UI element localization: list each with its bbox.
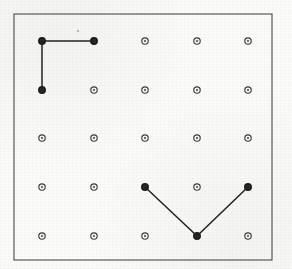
peg-c4-r3[interactable] xyxy=(194,135,200,141)
peg-center-dot-icon xyxy=(93,235,95,237)
peg-c2-r4[interactable] xyxy=(91,184,97,190)
peg-center-dot-icon xyxy=(196,186,198,188)
peg-c1-r5[interactable] xyxy=(39,233,45,239)
peg-c4-r1[interactable] xyxy=(194,38,200,44)
peg-center-dot-icon xyxy=(196,137,198,139)
peg-center-dot-icon xyxy=(93,137,95,139)
peg-center-dot-icon xyxy=(144,235,146,237)
peg-grid-layer xyxy=(39,38,251,239)
peg-center-dot-icon xyxy=(144,137,146,139)
peg-c4-r2[interactable] xyxy=(194,87,200,93)
peg-c3-r2[interactable] xyxy=(142,87,148,93)
peg-c1-r3[interactable] xyxy=(39,135,45,141)
peg-c3-r5[interactable] xyxy=(142,233,148,239)
peg-c5-r3[interactable] xyxy=(245,135,251,141)
peg-c5-r2[interactable] xyxy=(245,87,251,93)
peg-center-dot-icon xyxy=(247,40,249,42)
peg-center-dot-icon xyxy=(93,186,95,188)
peg-c5-r1[interactable] xyxy=(245,38,251,44)
peg-c4-r4[interactable] xyxy=(194,184,200,190)
peg-center-dot-icon xyxy=(247,89,249,91)
peg-center-dot-icon xyxy=(247,137,249,139)
right-angle-figure xyxy=(42,41,94,90)
peg-c2-r2[interactable] xyxy=(91,87,97,93)
geoboard-figure-page xyxy=(0,0,292,269)
peg-center-dot-icon xyxy=(41,137,43,139)
peg-c5-r5[interactable] xyxy=(245,233,251,239)
peg-center-dot-icon xyxy=(41,235,43,237)
peg-c2-r5[interactable] xyxy=(91,233,97,239)
peg-c3-r1[interactable] xyxy=(142,38,148,44)
peg-c1-r4[interactable] xyxy=(39,184,45,190)
peg-center-dot-icon xyxy=(196,89,198,91)
peg-center-dot-icon xyxy=(196,40,198,42)
peg-c2-r3[interactable] xyxy=(91,135,97,141)
peg-center-dot-icon xyxy=(144,89,146,91)
peg-center-dot-icon xyxy=(144,40,146,42)
vee-figure xyxy=(145,187,248,236)
scan-speck xyxy=(77,30,79,32)
peg-center-dot-icon xyxy=(93,89,95,91)
geoboard-canvas xyxy=(0,0,292,269)
peg-center-dot-icon xyxy=(247,235,249,237)
peg-c3-r3[interactable] xyxy=(142,135,148,141)
scan-artifact-layer xyxy=(77,30,79,32)
peg-center-dot-icon xyxy=(41,186,43,188)
